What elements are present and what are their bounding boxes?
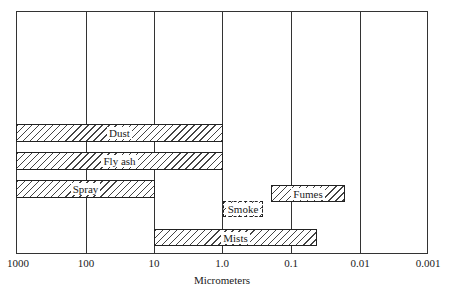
- bar-fumes: Fumes: [271, 185, 345, 202]
- bar-label-smoke: Smoke: [226, 203, 261, 215]
- bar-label-fly-ash: Fly ash: [101, 155, 137, 167]
- plot-area: Dust Fly ash Spray Fumes Smoke Mists: [16, 11, 428, 254]
- tick-10: 10: [149, 257, 160, 269]
- bar-smoke: Smoke: [223, 201, 263, 217]
- bar-mists: Mists: [154, 229, 317, 246]
- x-axis-label: Micrometers: [194, 274, 250, 286]
- bar-dust: Dust: [16, 124, 223, 142]
- gridline-0.01: [360, 12, 361, 253]
- tick-0.01: 0.01: [350, 257, 369, 269]
- bar-fly-ash: Fly ash: [16, 152, 223, 170]
- tick-0.1: 0.1: [284, 257, 298, 269]
- tick-0.001: 0.001: [416, 257, 441, 269]
- bar-label-fumes: Fumes: [291, 188, 324, 200]
- bar-label-mists: Mists: [221, 232, 249, 244]
- bar-spray: Spray: [16, 180, 155, 198]
- tick-100: 100: [78, 257, 95, 269]
- bar-label-spray: Spray: [71, 183, 101, 195]
- gridline-0.1: [291, 12, 292, 253]
- tick-1: 1.0: [215, 257, 229, 269]
- bar-label-dust: Dust: [107, 127, 132, 139]
- tick-1000: 1000: [7, 257, 29, 269]
